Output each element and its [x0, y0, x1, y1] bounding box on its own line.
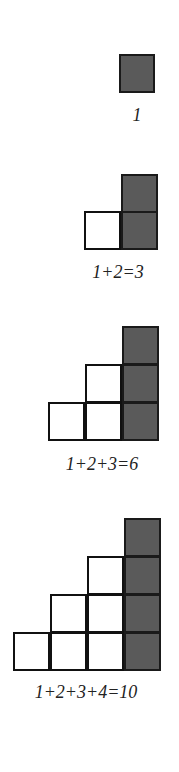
shaded-square [121, 211, 158, 250]
blank-square [13, 632, 50, 671]
shaded-square [122, 326, 159, 365]
shaded-square [122, 364, 159, 403]
blank-square [85, 402, 122, 441]
shaded-square [124, 632, 161, 671]
equation-label: 1 [119, 105, 155, 126]
blank-square [48, 402, 85, 441]
blank-square [84, 211, 121, 250]
equation-label: 1+2+3+4=10 [4, 682, 168, 703]
blank-square [50, 632, 87, 671]
shaded-square [124, 594, 161, 633]
shaded-square [124, 518, 161, 557]
equation-label: 1+2+3=6 [40, 454, 164, 475]
shaded-square [119, 54, 155, 93]
shaded-square [124, 556, 161, 595]
shaded-square [121, 174, 158, 213]
shaded-square [122, 402, 159, 441]
blank-square [85, 364, 122, 403]
equation-label: 1+2=3 [70, 262, 166, 283]
blank-square [50, 594, 87, 633]
blank-square [87, 594, 124, 633]
blank-square [87, 632, 124, 671]
blank-square [87, 556, 124, 595]
